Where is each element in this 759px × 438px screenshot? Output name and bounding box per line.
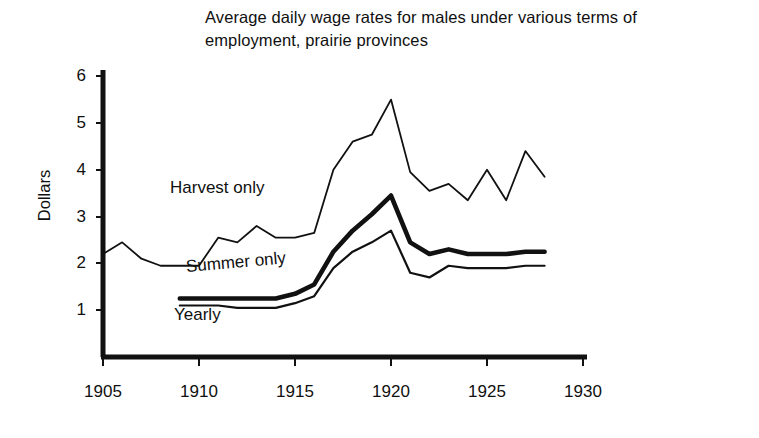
axis-lines — [101, 70, 587, 357]
series-line-harvest-only — [103, 100, 545, 266]
plot-canvas — [0, 0, 759, 438]
chart-figure: Average daily wage rates for males under… — [0, 0, 759, 438]
